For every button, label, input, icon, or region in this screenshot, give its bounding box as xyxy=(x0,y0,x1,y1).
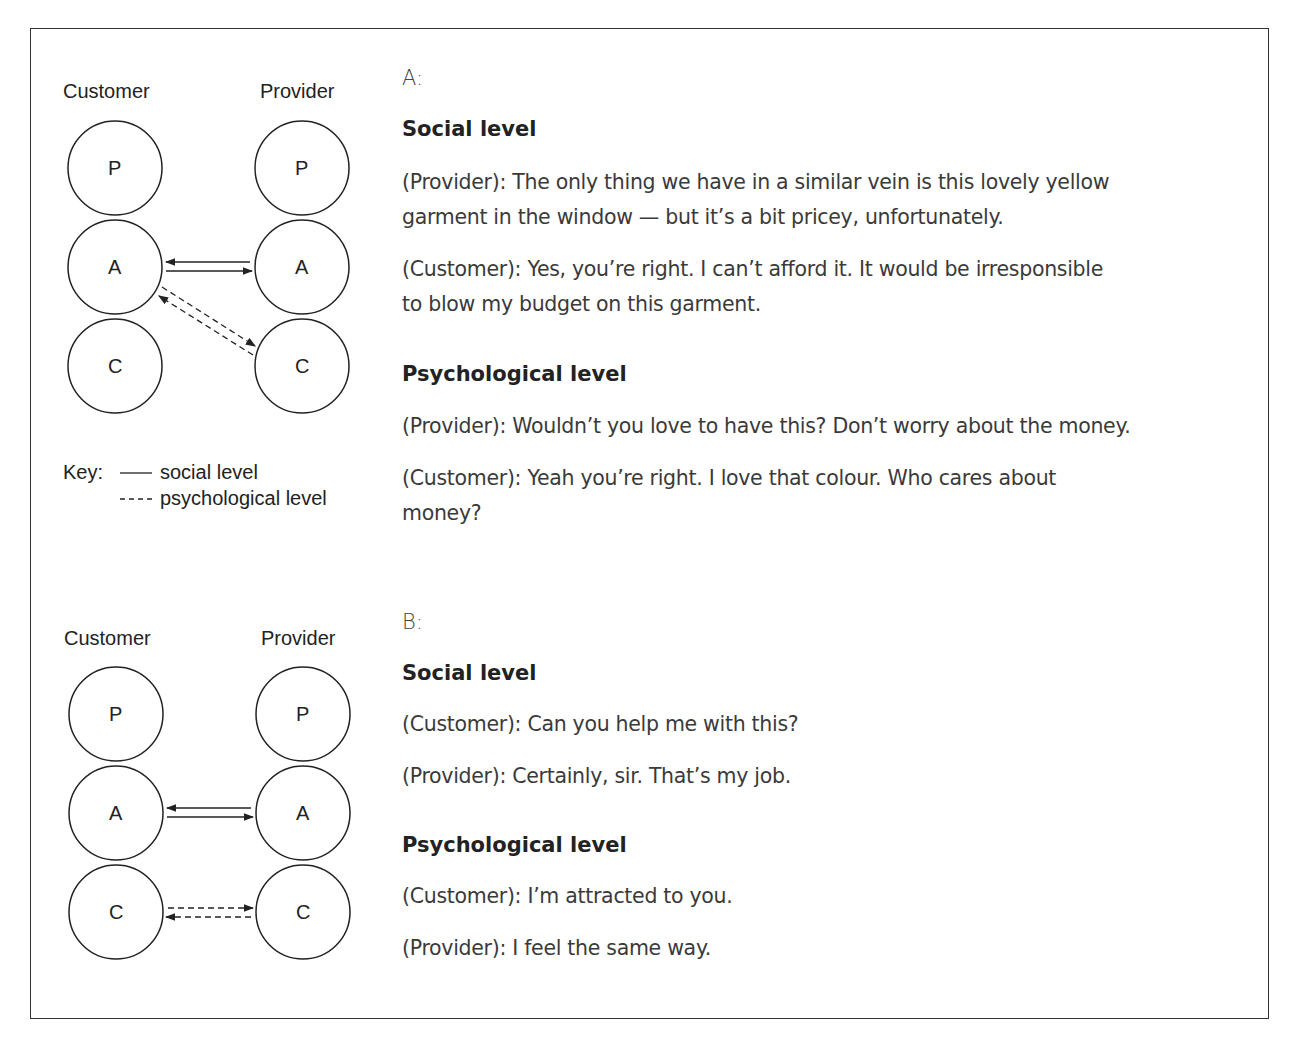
ego-state-diagram-b xyxy=(0,0,390,1000)
panel-a-psych-line-1: (Provider): Wouldn’t you love to have th… xyxy=(402,409,1252,444)
panel-a-social-line-1: (Provider): The only thing we have in a … xyxy=(402,165,1252,200)
speaker: (Customer): xyxy=(402,257,521,281)
speaker: (Provider): xyxy=(402,414,506,438)
panel-a-psych-heading: Psychological level xyxy=(402,362,627,386)
utterance: Yes, you’re right. I can’t afford it. It… xyxy=(527,257,1103,281)
customer-parent-label-b: P xyxy=(109,703,122,726)
speaker: (Provider): xyxy=(402,764,506,788)
panel-b-psych-heading: Psychological level xyxy=(402,833,627,857)
customer-child-label-b: C xyxy=(109,901,123,924)
panel-b-psych-line-2: (Provider): I feel the same way. xyxy=(402,931,1252,966)
panel-a-social-line-1-cont: garment in the window — but it’s a bit p… xyxy=(402,200,1252,235)
utterance: I’m attracted to you. xyxy=(527,884,732,908)
panel-a-social-heading: Social level xyxy=(402,117,536,141)
provider-adult-label-b: A xyxy=(296,802,309,825)
speaker: (Provider): xyxy=(402,936,506,960)
panel-a-label: A: xyxy=(402,66,423,90)
panel-a-social-line-2-cont: to blow my budget on this garment. xyxy=(402,287,1252,322)
panel-b-social-line-1: (Customer): Can you help me with this? xyxy=(402,707,1252,742)
utterance: Can you help me with this? xyxy=(527,712,798,736)
utterance: Yeah you’re right. I love that colour. W… xyxy=(527,466,1056,490)
panel-a-social-line-2: (Customer): Yes, you’re right. I can’t a… xyxy=(402,252,1252,287)
panel-b-label: B: xyxy=(402,610,423,634)
utterance: Wouldn’t you love to have this? Don’t wo… xyxy=(512,414,1130,438)
panel-b-social-line-2: (Provider): Certainly, sir. That’s my jo… xyxy=(402,759,1252,794)
panel-a-psych-line-2-cont: money? xyxy=(402,496,1252,531)
speaker: (Provider): xyxy=(402,170,506,194)
diagram-b: Customer Provider P A C P A C xyxy=(0,0,390,1000)
speaker: (Customer): xyxy=(402,884,521,908)
panel-a-psych-line-2: (Customer): Yeah you’re right. I love th… xyxy=(402,461,1252,496)
panel-b-psych-line-1: (Customer): I’m attracted to you. xyxy=(402,879,1252,914)
panel-b-social-heading: Social level xyxy=(402,661,536,685)
speaker: (Customer): xyxy=(402,466,521,490)
utterance: Certainly, sir. That’s my job. xyxy=(512,764,791,788)
customer-adult-label-b: A xyxy=(109,802,122,825)
speaker: (Customer): xyxy=(402,712,521,736)
utterance: I feel the same way. xyxy=(512,936,711,960)
provider-parent-label-b: P xyxy=(296,703,309,726)
utterance: The only thing we have in a similar vein… xyxy=(512,170,1109,194)
provider-child-label-b: C xyxy=(296,901,310,924)
